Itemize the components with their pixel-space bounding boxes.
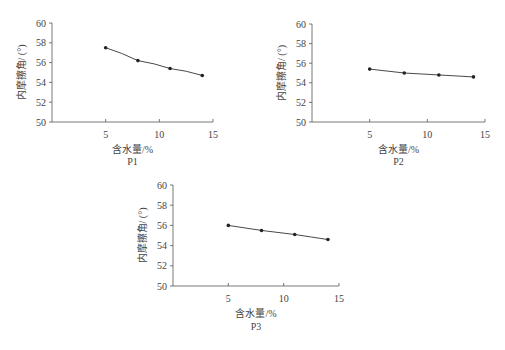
y-tick-label: 54 [296,77,306,88]
y-tick-label: 56 [36,57,46,68]
series-line [228,225,328,239]
data-point [168,67,172,71]
y-axis-title: 内摩擦角/ (°) [136,208,149,264]
series-line [370,69,474,77]
x-axis-title: 含水量/% [378,143,419,155]
y-tick-label: 58 [157,200,167,211]
data-point [104,46,108,50]
y-tick-label: 52 [157,260,167,271]
data-point [326,238,330,242]
y-tick-label: 56 [157,220,167,231]
y-tick-label: 54 [36,77,46,88]
data-point [136,59,140,63]
x-tick-label: 15 [208,129,218,140]
y-axis-title: 内摩擦角/ (°) [275,45,288,101]
y-tick-label: 58 [36,37,46,48]
x-tick-label: 5 [367,129,372,140]
x-tick-label: 10 [422,129,432,140]
figure: 50525456586051015含水量/%内摩擦角/ (°)P1 505254… [0,0,505,350]
y-tick-label: 52 [36,97,46,108]
chart-panel-p3: 50525456586051015含水量/%内摩擦角/ (°)P3 [136,180,344,333]
y-tick-label: 54 [157,240,167,251]
x-tick-label: 15 [334,293,344,304]
data-point [402,71,406,75]
data-point [293,233,297,237]
y-tick-label: 50 [36,117,46,128]
data-point [368,67,372,71]
x-axis-title: 含水量/% [112,143,153,155]
y-tick-label: 60 [157,180,167,191]
y-tick-label: 60 [296,19,306,30]
y-tick-label: 60 [36,18,46,29]
series-line [106,48,203,76]
x-tick-label: 15 [480,129,490,140]
data-point [260,229,264,233]
y-tick-label: 52 [296,97,306,108]
x-tick-label: 10 [154,129,164,140]
data-point [472,75,476,79]
x-tick-label: 5 [103,129,108,140]
y-tick-label: 56 [296,58,306,69]
data-point [200,74,204,78]
panel-title: P1 [127,156,138,167]
panel-title: P2 [393,156,404,167]
chart-panel-p2: 50525456586051015含水量/%内摩擦角/ (°)P2 [275,19,490,168]
x-axis-title: 含水量/% [235,307,276,319]
y-tick-label: 50 [157,281,167,292]
y-tick-label: 50 [296,117,306,128]
x-tick-label: 5 [226,293,231,304]
data-point [227,224,231,228]
panel-title: P3 [251,321,262,332]
y-axis-title: 内摩擦角/ (°) [15,45,28,101]
data-point [437,73,441,77]
x-tick-label: 10 [279,293,289,304]
chart-panel-p1: 50525456586051015含水量/%内摩擦角/ (°)P1 [15,18,218,168]
y-tick-label: 58 [296,38,306,49]
